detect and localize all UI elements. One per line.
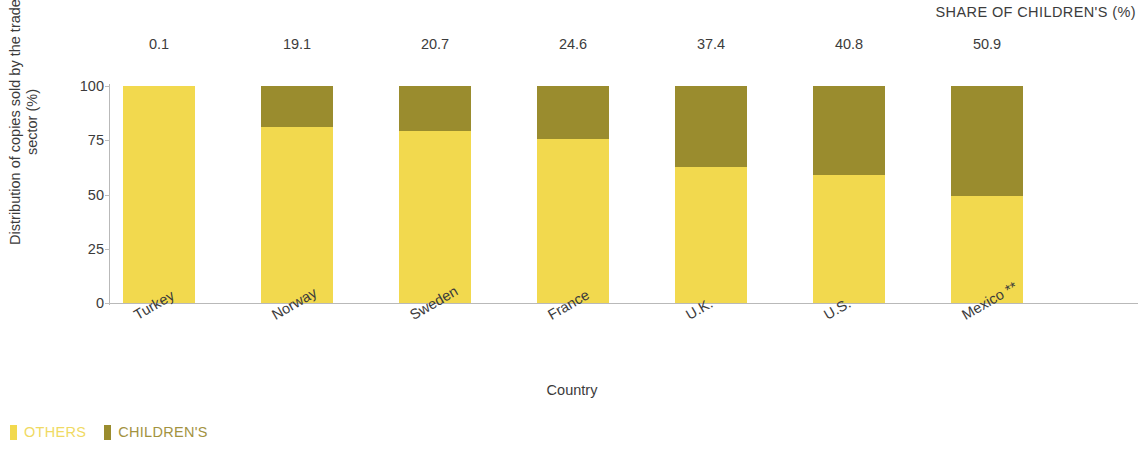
column-value-label: 20.7 [380,36,490,52]
bar-column [261,86,333,303]
bar-column [399,86,471,303]
bar-column [951,86,1023,303]
y-tick-label: 25 [60,241,104,257]
legend-label: OTHERS [24,424,86,440]
y-tick-mark [105,249,110,250]
bar-segment-others [399,131,471,303]
bar-segment-childrens [399,86,471,131]
column-value-label: 0.1 [104,36,214,52]
bar-segment-childrens [951,86,1023,196]
legend-label: CHILDREN'S [118,424,208,440]
chart-container: SHARE OF CHILDREN'S (%) Distribution of … [0,0,1144,452]
bar-column [537,86,609,303]
y-axis-ticks: 0255075100 [60,86,104,303]
x-axis-title: Country [0,382,1144,398]
y-axis-title: Distribution of copies sold by the trade… [7,0,41,252]
y-tick-label: 50 [60,187,104,203]
column-value-label: 40.8 [794,36,904,52]
bar-segment-others [123,86,195,303]
legend: OTHERSCHILDREN'S [10,424,208,440]
column-value-label: 37.4 [656,36,766,52]
y-tick-mark [105,303,110,304]
y-tick-mark [105,86,110,87]
column-value-label: 19.1 [242,36,352,52]
column-value-label: 50.9 [932,36,1042,52]
legend-item[interactable]: OTHERS [10,424,86,440]
column-value-label: 24.6 [518,36,628,52]
bar-column [123,86,195,303]
bar-segment-others [813,175,885,303]
bar-segment-childrens [813,86,885,175]
bar-segment-childrens [537,86,609,139]
bar-segment-others [537,139,609,303]
bar-column [813,86,885,303]
plot-area [110,86,1136,303]
bar-segment-others [261,127,333,303]
legend-swatch-icon [10,425,17,440]
share-of-childrens-header: SHARE OF CHILDREN'S (%) [936,4,1137,20]
y-tick-label: 75 [60,132,104,148]
bar-column [675,86,747,303]
legend-swatch-icon [104,425,111,440]
y-tick-label: 0 [60,295,104,311]
y-tick-label: 100 [60,78,104,94]
y-tick-mark [105,140,110,141]
legend-item[interactable]: CHILDREN'S [104,424,208,440]
bar-segment-childrens [261,86,333,127]
y-tick-mark [105,195,110,196]
bar-segment-others [675,167,747,303]
bar-segment-childrens [675,86,747,167]
